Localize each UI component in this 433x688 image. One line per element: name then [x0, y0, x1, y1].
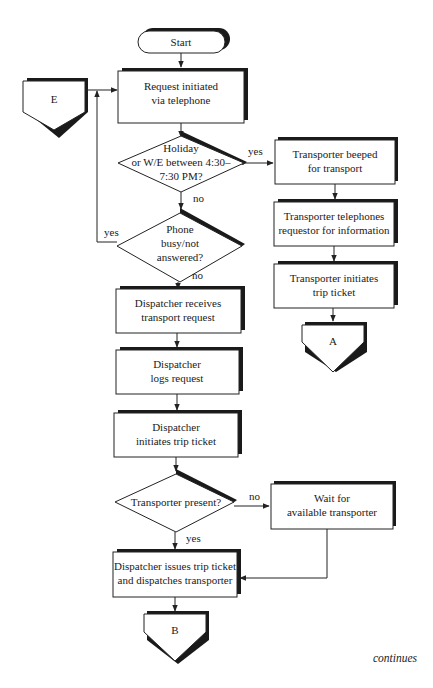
present-no-label: no: [249, 490, 261, 502]
edge-wait-issues: [240, 529, 327, 578]
holiday-line3: 7:30 PM?: [159, 170, 202, 182]
receives-line1: Dispatcher receives: [135, 297, 221, 309]
present-line1: Transporter present?: [131, 496, 221, 508]
t-initiates-line1: Transporter initiates: [290, 272, 379, 284]
process-dispatcher-logs: Dispatcher logs request: [116, 347, 243, 394]
wait-line2: available transporter: [287, 506, 377, 518]
connector-a-label: A: [329, 335, 337, 347]
present-yes-label: yes: [186, 532, 201, 544]
request-line2: via telephone: [152, 94, 211, 106]
holiday-yes-label: yes: [248, 145, 263, 157]
decision-phone-busy: Phone busy/not answered?: [117, 208, 245, 282]
phone-no-label: no: [192, 269, 204, 281]
process-dispatcher-issues: Dispatcher issues trip ticket and dispat…: [113, 549, 241, 597]
process-transporter-initiates: Transporter initiates trip ticket: [274, 261, 398, 308]
process-dispatcher-receives: Dispatcher receives transport request: [116, 286, 245, 333]
process-request-initiated: Request initiated via telephone: [118, 68, 248, 123]
telephones-line2: requestor for information: [278, 224, 390, 236]
edge-phone-yes-loop: [97, 91, 117, 242]
process-transporter-beeped: Transporter beeped for transport: [275, 137, 398, 184]
process-transporter-telephones: Transporter telephones requestor for inf…: [274, 199, 398, 246]
decision-holiday: Holiday or W/E between 4:30– 7:30 PM?: [118, 131, 247, 192]
receives-line2: transport request: [141, 311, 215, 323]
holiday-line1: Holiday: [163, 142, 199, 154]
telephones-line1: Transporter telephones: [284, 210, 385, 222]
flowchart-canvas: Start Request initiated via telephone E …: [0, 0, 433, 688]
process-wait-transporter: Wait for available transporter: [271, 481, 396, 529]
request-line1: Request initiated: [144, 80, 219, 92]
process-dispatcher-initiates: Dispatcher initiates trip ticket: [114, 410, 242, 457]
d-initiates-line1: Dispatcher: [152, 421, 200, 433]
logs-line2: logs request: [151, 372, 204, 384]
phone-yes-label: yes: [104, 226, 119, 238]
holiday-no-label: no: [193, 192, 205, 204]
phone-line2: busy/not: [161, 237, 199, 249]
d-initiates-line2: initiates trip ticket: [136, 435, 216, 447]
beeped-line2: for transport: [308, 162, 363, 174]
issues-line1: Dispatcher issues trip ticket: [114, 560, 236, 572]
connector-b: B: [144, 611, 209, 664]
logs-line1: Dispatcher: [153, 358, 201, 370]
beeped-line1: Transporter beeped: [293, 148, 378, 160]
decision-transporter-present: Transporter present?: [115, 469, 237, 532]
start-terminal: Start: [138, 28, 230, 53]
continues-note: continues: [373, 652, 418, 664]
holiday-line2: or W/E between 4:30–: [131, 156, 231, 168]
connector-e: E: [23, 78, 88, 138]
start-label: Start: [171, 36, 192, 48]
issues-line2: and dispatches transporter: [118, 574, 233, 586]
phone-line3: answered?: [157, 251, 204, 263]
connector-e-label: E: [51, 93, 58, 105]
phone-line1: Phone: [166, 223, 194, 235]
t-initiates-line2: trip ticket: [313, 286, 355, 298]
wait-line1: Wait for: [314, 492, 350, 504]
connector-a: A: [302, 322, 367, 372]
connector-b-label: B: [171, 624, 178, 636]
